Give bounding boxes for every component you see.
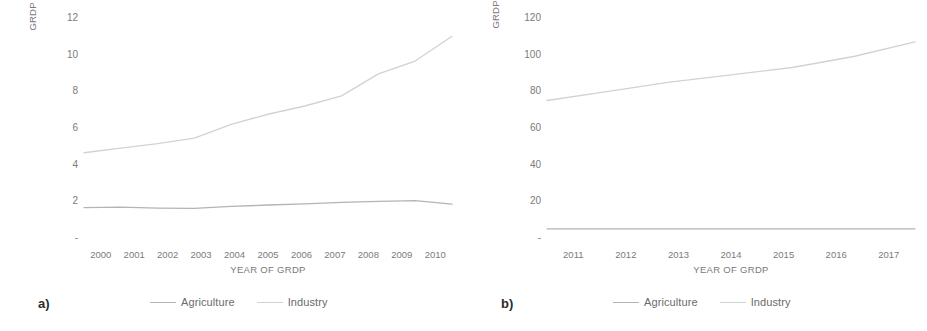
x-tick-label: 2002 [151,248,184,262]
x-tick-label: 2000 [84,248,117,262]
legend-label: Agriculture [644,296,698,308]
y-axis-title-a: GRDP (IN TRILLION RUPIAHS) [26,0,40,40]
series-line-industry [547,42,915,101]
figure-row: GRDP (IN TRILLION RUPIAHS) -24681012 200… [0,0,927,331]
panel-tag-a: a) [38,296,50,311]
x-tick-label: 2016 [810,248,863,262]
legend-line-icon [613,302,639,303]
y-axis-ticks-b: -20406080100120 [507,0,541,245]
legend-label: Agriculture [181,296,235,308]
plot-area-a [84,18,452,238]
x-tick-label: 2012 [600,248,653,262]
y-tick-label: - [507,233,541,243]
legend-item-agriculture[interactable]: Agriculture [150,296,235,308]
series-line-industry [84,36,452,152]
x-axis-title-b: YEAR OF GRDP [547,264,915,275]
legend-b: AgricultureIndustry [613,296,791,308]
y-tick-label: 8 [44,86,78,96]
y-tick-label: 20 [507,196,541,206]
legend-a: AgricultureIndustry [150,296,328,308]
y-tick-label: 2 [44,196,78,206]
y-tick-label: - [44,233,78,243]
x-tick-label: 2004 [218,248,251,262]
x-tick-label: 2014 [705,248,758,262]
line-chart-svg-b [547,18,915,238]
x-axis-ticks-a: 2000200120022003200420052006200720082009… [84,248,452,262]
series-line-agriculture [84,201,452,209]
panel-footer-a: a) AgricultureIndustry [0,292,463,322]
x-tick-label: 2017 [862,248,915,262]
y-tick-label: 12 [44,13,78,23]
y-tick-label: 60 [507,123,541,133]
x-tick-label: 2003 [184,248,217,262]
x-tick-label: 2001 [117,248,150,262]
legend-label: Industry [288,296,328,308]
panel-footer-b: b) AgricultureIndustry [463,292,926,322]
x-tick-label: 2007 [318,248,351,262]
y-tick-label: 40 [507,160,541,170]
y-tick-label: 80 [507,86,541,96]
x-tick-label: 2009 [385,248,418,262]
plot-area-b [547,18,915,238]
x-axis-ticks-b: 2011201220132014201520162017 [547,248,915,262]
panel-tag-b: b) [501,296,513,311]
x-tick-label: 2005 [251,248,284,262]
legend-line-icon [257,302,283,303]
y-tick-label: 10 [44,50,78,60]
legend-line-icon [720,302,746,303]
x-tick-label: 2006 [285,248,318,262]
plot-block-a: GRDP (IN TRILLION RUPIAHS) -24681012 200… [0,0,463,285]
legend-line-icon [150,302,176,303]
y-axis-ticks-a: -24681012 [44,0,78,245]
y-tick-label: 4 [44,160,78,170]
y-tick-label: 100 [507,50,541,60]
x-tick-label: 2010 [419,248,452,262]
x-tick-label: 2008 [352,248,385,262]
chart-panel-b: GRDP (IN TRILLION RUPIAHS) -204060801001… [463,0,926,331]
x-tick-label: 2015 [757,248,810,262]
y-axis-title-b: GRDP (IN TRILLION RUPIAHS) [489,0,503,38]
legend-item-industry[interactable]: Industry [257,296,328,308]
x-axis-title-a: YEAR OF GRDP [84,264,452,275]
plot-block-b: GRDP (IN TRILLION RUPIAHS) -204060801001… [463,0,926,285]
line-chart-svg-a [84,18,452,238]
chart-panel-a: GRDP (IN TRILLION RUPIAHS) -24681012 200… [0,0,463,331]
y-tick-label: 6 [44,123,78,133]
legend-item-industry[interactable]: Industry [720,296,791,308]
x-tick-label: 2013 [652,248,705,262]
legend-label: Industry [751,296,791,308]
y-tick-label: 120 [507,13,541,23]
x-tick-label: 2011 [547,248,600,262]
legend-item-agriculture[interactable]: Agriculture [613,296,698,308]
